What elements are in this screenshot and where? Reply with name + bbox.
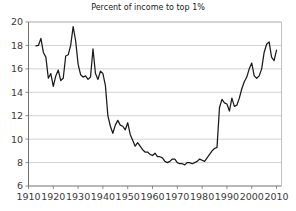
x-tick-label: 1920: [41, 191, 65, 202]
x-tick-label: 1930: [66, 191, 90, 202]
x-tick-label: 2010: [264, 191, 288, 202]
x-tick-label: 1980: [190, 191, 214, 202]
y-tick-label: 8: [17, 157, 23, 168]
y-tick-label: 6: [17, 180, 23, 191]
x-tick-label: 1990: [215, 191, 239, 202]
x-tick-label: 2000: [240, 191, 264, 202]
axis-frame: [29, 22, 282, 186]
y-tick-label: 20: [11, 16, 23, 27]
chart-figure: Percent of income to top 1% 681012141618…: [0, 0, 296, 211]
y-tick-label: 10: [11, 134, 23, 145]
y-axis-ticks: 68101214161820: [11, 16, 29, 191]
x-tick-label: 1970: [165, 191, 189, 202]
chart-plot-area: 68101214161820 1910192019301940195019601…: [0, 0, 296, 211]
x-tick-label: 1960: [140, 191, 164, 202]
x-tick-label: 1910: [16, 191, 40, 202]
x-tick-label: 1950: [116, 191, 140, 202]
grid-lines: [29, 22, 282, 163]
data-series-lines: [36, 27, 277, 165]
y-tick-label: 16: [11, 63, 23, 74]
x-axis-ticks: 1910192019301940195019601970198019902000…: [16, 186, 288, 202]
y-tick-label: 18: [11, 40, 23, 51]
y-tick-label: 14: [11, 87, 23, 98]
y-tick-label: 12: [11, 110, 23, 121]
series-line: [36, 27, 277, 165]
x-tick-label: 1940: [91, 191, 115, 202]
